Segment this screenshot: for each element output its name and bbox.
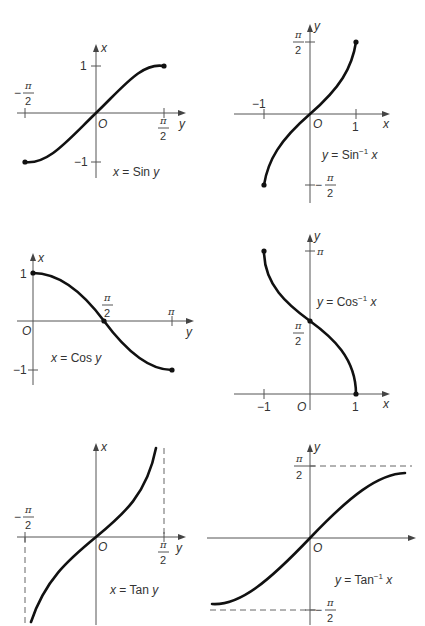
svg-text:y = Sin−1 x: y = Sin−1 x <box>321 147 379 162</box>
sin-curve <box>25 66 164 163</box>
tick-label-neg-pi-2: − π 2 <box>14 504 34 531</box>
arrow-up-icon <box>30 253 36 261</box>
mid-point <box>307 318 312 323</box>
arrow-right-icon <box>178 534 186 540</box>
arrow-right-icon <box>186 318 194 324</box>
endpoint <box>22 159 27 164</box>
origin-label: O <box>22 324 31 338</box>
axis-label-x: x <box>382 397 390 411</box>
axis-label-y: y <box>313 19 321 33</box>
origin-label: O <box>313 541 322 555</box>
svg-text:y = Cos−1 x: y = Cos−1 x <box>316 294 377 309</box>
panel-arctan: y O π 2 − π 2 y = Tan−1 x <box>207 440 416 625</box>
tick-label-pi: π <box>316 246 324 257</box>
tick-label-neg1: −1 <box>257 400 271 414</box>
endpoint <box>261 248 266 253</box>
svg-text:2: 2 <box>295 335 301 347</box>
arrow-up-icon <box>307 24 313 32</box>
arrow-up-icon <box>93 443 99 451</box>
svg-text:x = Cos y: x = Cos y <box>50 351 102 365</box>
axis-label-x: x <box>382 117 390 131</box>
svg-text:π: π <box>294 29 302 40</box>
svg-text:2: 2 <box>160 554 166 566</box>
arctan-curve <box>212 473 405 604</box>
svg-text:−: − <box>14 510 21 524</box>
tick-label-pi-2: π 2 <box>293 29 304 56</box>
tick-label-neg-pi-2: − π 2 <box>315 597 336 624</box>
panel-arccos: y x −1 1 O π π 2 y = Cos−1 x <box>234 229 390 414</box>
curve-title: x = Cos y <box>50 351 102 365</box>
tick-label-1: 1 <box>80 59 87 73</box>
tick-label-1: 1 <box>352 400 359 414</box>
tick-label-neg-pi-2: − π 2 <box>315 172 336 199</box>
panel-sin: x y 1 −1 O − π 2 π 2 x = Sin y <box>14 41 186 179</box>
svg-text:2: 2 <box>296 469 302 481</box>
axis-label-x: x <box>37 251 45 265</box>
origin-label: O <box>98 540 107 554</box>
tick-label-pi-2: π 2 <box>102 292 113 319</box>
tick-label-pi-2: π 2 <box>293 320 304 347</box>
curve-title: x = Tan y <box>109 583 159 597</box>
endpoint <box>161 63 166 68</box>
origin-label: O <box>313 117 322 131</box>
tick-label-neg1: −1 <box>252 97 266 111</box>
svg-text:y = Tan−1 x: y = Tan−1 x <box>334 572 393 587</box>
tick-label-1: 1 <box>352 120 359 134</box>
arrow-up-icon <box>307 234 313 242</box>
tick-label-1: 1 <box>20 267 27 281</box>
axis-label-y: y <box>313 440 321 454</box>
svg-text:π: π <box>295 453 303 464</box>
panel-arcsin: y x −1 1 O π 2 − π 2 y = Sin−1 x <box>234 19 390 203</box>
endpoint <box>353 391 358 396</box>
origin-label: O <box>98 117 107 131</box>
svg-text:−: − <box>315 603 322 617</box>
tick-label-pi: π <box>167 306 175 317</box>
svg-text:2: 2 <box>25 95 31 107</box>
endpoint <box>353 39 358 44</box>
svg-text:2: 2 <box>160 130 166 142</box>
curve-title: y = Cos−1 x <box>316 294 377 309</box>
axis-label-x: x <box>100 440 108 454</box>
svg-text:π: π <box>24 504 32 515</box>
svg-text:2: 2 <box>295 44 301 56</box>
svg-text:2: 2 <box>327 187 333 199</box>
tick-label-neg1: −1 <box>13 363 27 377</box>
svg-text:π: π <box>294 320 302 331</box>
tick-label-pi-2: π 2 <box>294 453 305 481</box>
svg-text:2: 2 <box>104 307 110 319</box>
svg-text:π: π <box>326 172 334 183</box>
arrow-right-icon <box>178 110 186 116</box>
endpoint <box>169 367 174 372</box>
tick-label-pi-2: π 2 <box>158 539 169 566</box>
svg-text:−: − <box>315 178 322 192</box>
axis-label-y: y <box>175 541 183 555</box>
svg-text:−: − <box>14 86 21 100</box>
tick-label-neg-pi-2: − π 2 <box>14 80 34 107</box>
svg-text:2: 2 <box>25 519 31 531</box>
endpoint <box>30 270 35 275</box>
arrow-right-icon <box>408 535 416 541</box>
svg-text:x = Tan y: x = Tan y <box>109 583 159 597</box>
axis-label-y: y <box>313 229 321 243</box>
curve-title: x = Sin y <box>112 165 160 179</box>
axis-label-y: y <box>178 117 186 131</box>
inverse-trig-figure: x y 1 −1 O − π 2 π 2 x = Sin y y <box>0 0 425 626</box>
axis-label-x: x <box>100 41 108 55</box>
svg-text:x = Sin y: x = Sin y <box>112 165 160 179</box>
svg-text:π: π <box>159 115 167 126</box>
svg-text:2: 2 <box>327 612 333 624</box>
svg-text:π: π <box>326 597 334 608</box>
zero-point <box>101 318 106 323</box>
axis-label-y: y <box>185 325 193 339</box>
tick-label-neg1: −1 <box>74 155 88 169</box>
tick-label-pi-2: π 2 <box>158 115 169 142</box>
svg-text:π: π <box>159 539 167 550</box>
panel-tan: x y O − π 2 π 2 x = Tan y <box>14 440 186 625</box>
svg-text:π: π <box>24 80 32 91</box>
svg-text:π: π <box>103 292 111 303</box>
panel-cos: x y 1 −1 O π 2 π x = Cos y <box>13 251 194 385</box>
endpoint <box>261 182 266 187</box>
arrow-up-icon <box>93 44 99 52</box>
curve-title: y = Tan−1 x <box>334 572 393 587</box>
curve-title: y = Sin−1 x <box>321 147 379 162</box>
